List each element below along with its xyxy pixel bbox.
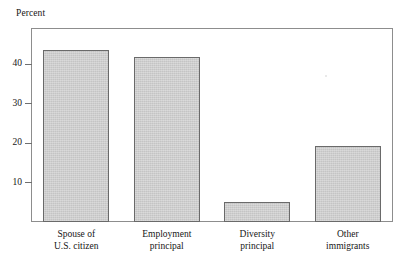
y-axis-title: Percent	[16, 7, 45, 19]
bar-fill	[44, 51, 108, 221]
y-axis-tick-label: 20	[0, 137, 22, 147]
bar-fill	[225, 203, 289, 221]
x-axis-label-line: U.S. citizen	[31, 240, 122, 252]
y-axis-tick-label: 30	[0, 98, 22, 108]
x-axis-category-label: Otherimmigrants	[303, 228, 394, 252]
plot-area	[31, 28, 393, 222]
bar	[134, 57, 200, 222]
scan-speck-artifact	[325, 75, 327, 77]
x-axis-label-line: Other	[337, 229, 359, 239]
bar	[315, 146, 381, 222]
y-axis-tick-label: 10	[0, 177, 22, 187]
x-axis-label-line: Employment	[142, 229, 191, 239]
x-axis-label-line: principal	[212, 240, 303, 252]
x-axis-category-label: Spouse ofU.S. citizen	[31, 228, 122, 252]
bar	[224, 202, 290, 222]
x-axis-category-label: Diversityprincipal	[212, 228, 303, 252]
x-axis-label-line: principal	[122, 240, 213, 252]
x-axis-category-label: Employmentprincipal	[122, 228, 213, 252]
bar	[43, 50, 109, 222]
bar-fill	[135, 58, 199, 221]
bar-fill	[316, 147, 380, 221]
x-axis-label-line: immigrants	[303, 240, 394, 252]
x-axis-label-line: Diversity	[240, 229, 275, 239]
bar-chart-figure: Percent 10203040 Spouse ofU.S. citizenEm…	[0, 0, 407, 267]
y-axis-tick-label: 40	[0, 58, 22, 68]
x-axis-label-line: Spouse of	[57, 229, 95, 239]
